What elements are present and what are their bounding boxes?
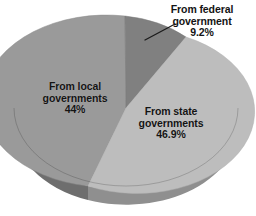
- pie-label-local-line1: From local: [23, 81, 127, 93]
- pie-label-federal: From federal government 9.2%: [150, 4, 254, 39]
- pie-label-local-value: 44%: [23, 104, 127, 116]
- pie-chart-figure: From federal government 9.2% From local …: [0, 0, 256, 216]
- pie-label-state: From state governments 46.9%: [119, 106, 223, 141]
- pie-label-federal-line1: From federal: [150, 4, 254, 16]
- pie-label-local: From local governments 44%: [23, 81, 127, 116]
- pie-label-state-line1: From state: [119, 106, 223, 118]
- pie-label-state-value: 46.9%: [119, 129, 223, 141]
- pie-label-federal-value: 9.2%: [150, 27, 254, 39]
